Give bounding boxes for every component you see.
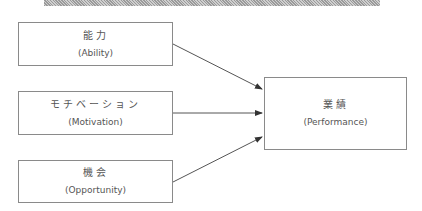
arrow-ability-to-performance <box>173 44 262 89</box>
arrows-layer <box>0 0 422 211</box>
arrow-opportunity-to-performance <box>173 137 262 182</box>
